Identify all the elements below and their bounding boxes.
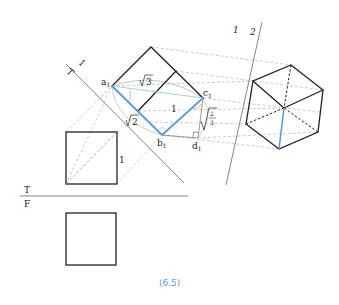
hidden-edge-1 — [284, 65, 291, 108]
fold-label-F: F — [24, 199, 30, 209]
edge-b-c — [162, 98, 203, 135]
visible-edge-2 — [284, 90, 323, 108]
fold-label-2: 2 — [249, 27, 256, 37]
top-view-square — [66, 132, 117, 184]
svg-text:2: 2 — [210, 110, 214, 117]
fold-label-1: 1 — [77, 57, 88, 68]
aux-view-2-cube — [246, 65, 323, 149]
label-bc-length: 1 — [171, 104, 177, 114]
descriptive-geometry-diagram: T F 1 T 1 2 1 a1 b1 c1 d1 — [0, 0, 339, 305]
edge-a-c — [112, 86, 203, 98]
svg-text:3: 3 — [210, 119, 214, 126]
hidden-edge-2 — [246, 108, 284, 124]
fold-label-T: T — [24, 185, 30, 195]
svg-text:3: 3 — [146, 77, 152, 87]
arc-sqrt3 — [112, 80, 203, 98]
label-sqrt3: 3 — [140, 75, 153, 87]
fold-label-T2: T — [65, 66, 76, 77]
top-view-edge-label: 1 — [119, 155, 125, 165]
diagonal-edge-blue — [279, 108, 284, 149]
fold-label-1b: 1 — [233, 25, 239, 35]
point-c1-label: c1 — [203, 88, 212, 99]
point-a1-label: a1 — [101, 77, 110, 88]
visible-edge-1 — [253, 81, 284, 108]
figure-caption: (6.5) — [159, 278, 180, 288]
point-d1-label: d1 — [192, 141, 202, 152]
label-sqrt-2-3: 2 3 — [201, 108, 217, 130]
hidden-edge-3 — [284, 108, 318, 132]
svg-text:2: 2 — [132, 117, 138, 127]
fold-line-aux1-aux2 — [226, 22, 262, 185]
line-b-d — [162, 135, 198, 138]
front-view-square — [66, 213, 116, 265]
hexagon-outline — [246, 65, 323, 149]
point-b1-label: b1 — [157, 138, 167, 149]
